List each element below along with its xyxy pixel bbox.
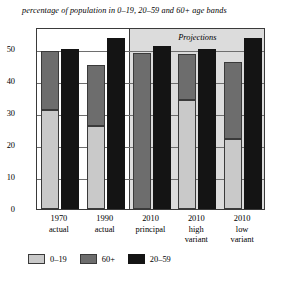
legend-swatch-icon: [80, 254, 97, 264]
legend-swatch-icon: [128, 254, 145, 264]
y-tick-40: 40: [0, 78, 15, 86]
y-tick-20: 20: [0, 142, 15, 150]
legend-label: 20–59: [150, 255, 171, 264]
chart-container: percentage of population in 0–19, 20–59 …: [0, 0, 283, 282]
stacked-bar: [224, 62, 242, 209]
chart-title: percentage of population in 0–19, 20–59 …: [22, 6, 277, 16]
bar-20-59: [61, 49, 79, 209]
x-tick-label-line: 2010: [212, 214, 272, 225]
x-tick-label-line: low: [212, 225, 272, 236]
bar-20-59: [107, 38, 125, 209]
plot-area: Projections: [36, 28, 265, 210]
legend-label: 60+: [102, 255, 115, 264]
y-tick-10: 10: [0, 174, 15, 182]
bar-segment-0-19: [87, 126, 105, 209]
stacked-bar: [41, 51, 59, 209]
bar-segment-60plus: [41, 51, 59, 110]
legend-label: 0–19: [50, 255, 67, 264]
legend-item[interactable]: 60+: [80, 254, 115, 264]
legend-item[interactable]: 20–59: [128, 254, 171, 264]
y-tick-0: 0: [0, 206, 15, 214]
stacked-bar: [133, 53, 151, 209]
bar-segment-0-19: [224, 139, 242, 209]
stacked-bar: [87, 65, 105, 209]
x-tick-label: 2010lowvariant: [212, 214, 272, 246]
bar-segment-60plus: [87, 65, 105, 126]
bar-segment-0-19: [41, 110, 59, 209]
chart-legend: 0–1960+20–59: [28, 254, 184, 264]
bar-segment-0-19: [178, 100, 196, 209]
bar-20-59: [153, 46, 171, 209]
bar-segment-60plus: [133, 53, 151, 209]
y-tick-30: 30: [0, 110, 15, 118]
bar-segment-60plus: [178, 54, 196, 100]
x-tick-label-line: variant: [212, 235, 272, 246]
y-tick-50: 50: [0, 46, 15, 54]
stacked-bar: [178, 54, 196, 209]
legend-swatch-icon: [28, 254, 45, 264]
bar-20-59: [244, 38, 262, 209]
projections-divider: [129, 29, 130, 209]
bar-20-59: [198, 49, 216, 209]
legend-item[interactable]: 0–19: [28, 254, 67, 264]
bar-segment-60plus: [224, 62, 242, 139]
